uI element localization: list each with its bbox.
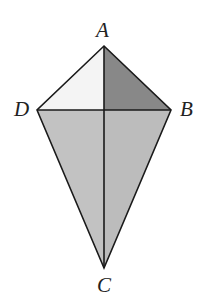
vertex-label-a: A <box>96 20 109 41</box>
kite-diagram-svg <box>0 0 202 306</box>
vertex-label-c: C <box>97 275 111 296</box>
vertex-label-d: D <box>14 99 29 120</box>
vertex-label-b: B <box>180 99 193 120</box>
geometry-figure: A B C D <box>0 0 202 306</box>
